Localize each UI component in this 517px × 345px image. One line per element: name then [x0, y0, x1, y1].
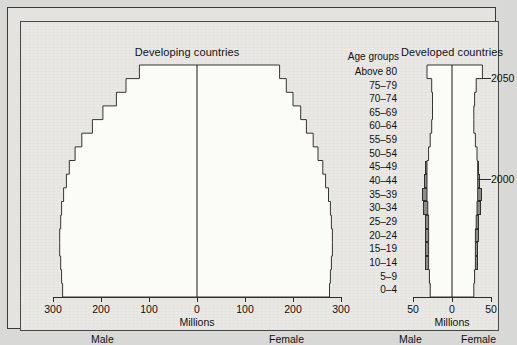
x-axis-tick-label: 300: [33, 303, 73, 315]
age-group-label: 10–14: [369, 257, 397, 268]
x-axis-caption: Millions: [53, 316, 341, 328]
female-label: Female: [269, 333, 304, 345]
age-group-label: 45–49: [369, 161, 397, 172]
annotation-2050-developed: 2050: [491, 72, 514, 84]
figure-inner-border: Developing countries 3002001000100200300…: [20, 21, 499, 331]
age-group-label: 70–74: [369, 93, 397, 104]
x-axis-tick-label: 50: [393, 303, 433, 315]
annotation-2000-developed: 2000: [491, 173, 514, 185]
male-label: Male: [399, 333, 422, 345]
age-group-label: 0–4: [380, 284, 397, 295]
x-axis-tick: [491, 297, 492, 302]
chart-title-developed: Developed countries: [393, 46, 511, 58]
x-axis-tick: [101, 297, 102, 302]
age-group-label: 5–9: [380, 271, 397, 282]
age-group-label: 30–34: [369, 202, 397, 213]
x-axis-tick-label: 0: [177, 303, 217, 315]
chart-developing-countries: Developing countries 3002001000100200300…: [47, 46, 357, 328]
age-group-label: 15–19: [369, 243, 397, 254]
age-group-label: Above 80: [355, 66, 397, 77]
x-axis-tick-label: 200: [273, 303, 313, 315]
x-axis-tick: [53, 297, 54, 302]
age-group-label: 75–79: [369, 80, 397, 91]
age-group-label: 40–44: [369, 175, 397, 186]
outline-2050-fill: [427, 65, 482, 297]
age-group-label: 20–24: [369, 230, 397, 241]
male-label: Male: [91, 333, 114, 345]
plot-area-developing: [53, 65, 341, 297]
x-axis-tick: [452, 297, 453, 302]
x-axis-tick-label: 100: [129, 303, 169, 315]
plot-area-developed: [413, 65, 491, 297]
age-group-label: 65–69: [369, 107, 397, 118]
figure-paper: Developing countries 3002001000100200300…: [7, 7, 496, 329]
x-axis-tick-label: 50: [471, 303, 511, 315]
center-axis-line-left: [197, 65, 198, 297]
x-axis-tick-label: 100: [225, 303, 265, 315]
x-axis-caption: Millions: [413, 316, 491, 328]
chart-title-developing: Developing countries: [47, 46, 327, 58]
age-groups-heading: Age groups: [327, 51, 399, 62]
age-group-label: 50–54: [369, 148, 397, 159]
x-axis-tick-label: 0: [432, 303, 472, 315]
female-label: Female: [461, 333, 496, 345]
age-group-label: 35–39: [369, 189, 397, 200]
x-axis-tick: [245, 297, 246, 302]
x-axis-tick: [149, 297, 150, 302]
age-group-label: 55–59: [369, 134, 397, 145]
age-group-label: 25–29: [369, 216, 397, 227]
x-axis-tick-label: 200: [81, 303, 121, 315]
x-axis-tick: [293, 297, 294, 302]
age-group-label: 60–64: [369, 120, 397, 131]
center-axis-line-right: [452, 65, 453, 297]
x-axis-tick: [197, 297, 198, 302]
x-axis-tick: [413, 297, 414, 302]
chart-developed-countries: Developed countries 50050 MillionsMaleFe…: [399, 46, 517, 328]
